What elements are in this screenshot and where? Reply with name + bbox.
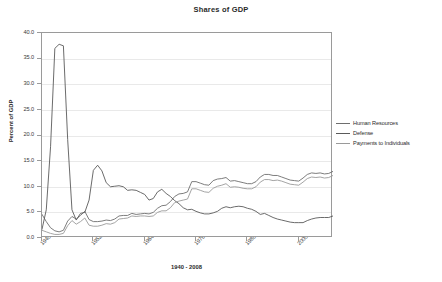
data-lines (42, 33, 333, 238)
x-axis-label: 1940 - 2008 (41, 264, 332, 270)
legend-line-icon (336, 143, 350, 144)
legend-item[interactable]: Payments to Individuals (336, 138, 440, 148)
shares-of-gdp-chart: Shares of GDP 40.035.030.025.020.015.010… (0, 0, 442, 282)
y-axis-tick: 0.0 (0, 234, 34, 240)
y-axis-tick: 40.0 (0, 29, 34, 35)
legend-label: Payments to Individuals (353, 140, 410, 146)
series-line (42, 175, 333, 234)
legend-line-icon (336, 123, 350, 124)
y-axis-tick: 25.0 (0, 106, 34, 112)
legend-label: Defense (353, 130, 373, 136)
y-axis-tick: 20.0 (0, 131, 34, 137)
series-line (42, 171, 333, 231)
y-axis-tick: 10.0 (0, 183, 34, 189)
chart-legend: Human ResourcesDefensePayments to Indivi… (336, 118, 440, 148)
legend-line-icon (336, 133, 350, 134)
y-axis-tick: 5.0 (0, 208, 34, 214)
plot-area (41, 32, 332, 237)
series-line (42, 44, 333, 229)
chart-title: Shares of GDP (0, 5, 442, 14)
y-axis-tick: 30.0 (0, 80, 34, 86)
y-axis-label: Percent of GDP (8, 86, 14, 156)
legend-item[interactable]: Defense (336, 128, 440, 138)
legend-label: Human Resources (353, 120, 398, 126)
y-axis-tick: 35.0 (0, 54, 34, 60)
legend-item[interactable]: Human Resources (336, 118, 440, 128)
y-axis-tick: 15.0 (0, 157, 34, 163)
